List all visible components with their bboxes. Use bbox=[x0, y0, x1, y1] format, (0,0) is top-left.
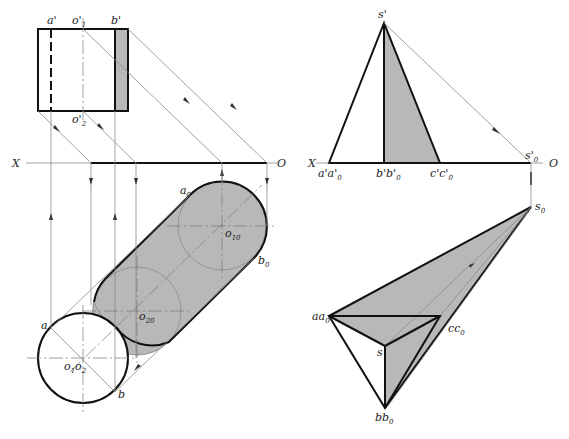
axis-x-label-right: X bbox=[307, 157, 317, 170]
label-s0-prime: s'0 bbox=[525, 149, 539, 164]
arrow-icon bbox=[134, 178, 138, 185]
ray bbox=[83, 29, 222, 163]
label-aa0: aa0 bbox=[312, 310, 330, 325]
label-b-b0-prime: b'b'0 bbox=[376, 167, 401, 182]
label-o1-prime: o'1 bbox=[72, 14, 86, 29]
arrow-icon bbox=[230, 103, 237, 110]
pyramid-panel: X O s' a'a'0 b'b'0 c'c'0 s'0 aa0 cc0 s b… bbox=[307, 8, 558, 426]
arrow-icon bbox=[492, 127, 500, 134]
label-bb0: bb0 bbox=[375, 411, 394, 426]
arrow-icon bbox=[49, 213, 53, 220]
cylinder-panel: X O a' o'1 b' o'2 a b o1o2 a0 b0 o10 o20 bbox=[11, 14, 286, 415]
ray bbox=[128, 29, 267, 163]
axis-o-label: O bbox=[277, 157, 286, 170]
label-o2-prime: o'2 bbox=[72, 113, 87, 128]
label-s: s bbox=[377, 346, 383, 359]
arrow-icon bbox=[89, 178, 93, 185]
label-cc0: cc0 bbox=[448, 322, 465, 337]
label-b0: b0 bbox=[258, 254, 270, 269]
label-a: a bbox=[41, 319, 48, 332]
arrow-icon bbox=[183, 97, 190, 104]
label-a0: a0 bbox=[180, 184, 192, 199]
arrow-icon bbox=[265, 178, 269, 185]
label-b-prime: b' bbox=[111, 14, 121, 27]
axis-x-label: X bbox=[11, 157, 21, 170]
axis-o-label-right: O bbox=[549, 157, 558, 170]
arrow-icon bbox=[53, 125, 60, 132]
label-s0: s0 bbox=[535, 200, 546, 215]
label-a-prime: a' bbox=[47, 14, 57, 27]
label-s-prime: s' bbox=[378, 8, 387, 21]
label-a-a0-prime: a'a'0 bbox=[318, 167, 342, 182]
arrow-icon bbox=[97, 123, 104, 130]
arrow-icon bbox=[113, 213, 117, 220]
pyramid-shadow-area bbox=[329, 207, 531, 408]
label-c-c0-prime: c'c'0 bbox=[430, 167, 453, 182]
label-b: b bbox=[118, 388, 125, 401]
projection-drawing: X O a' o'1 b' o'2 a b o1o2 a0 b0 o10 o20 bbox=[0, 0, 569, 439]
ray bbox=[83, 111, 136, 163]
